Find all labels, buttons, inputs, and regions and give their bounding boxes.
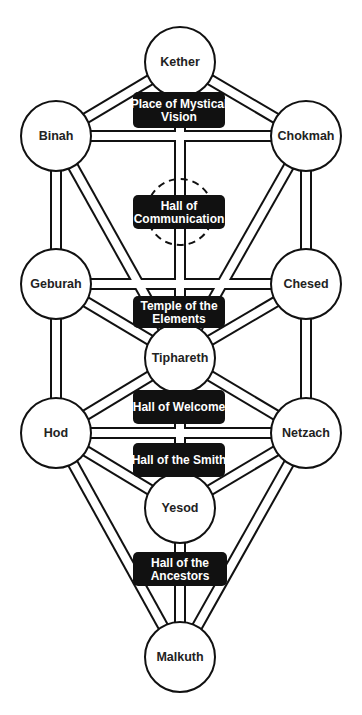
hall-label-text: Hall of the Smith [132,453,227,467]
hall-label-text: Vision [161,110,197,124]
sephirah-tiphareth: Tiphareth [145,323,215,393]
sephirah-label: Hod [44,426,68,440]
sephirah-binah: Binah [21,101,91,171]
sephirah-hod: Hod [21,398,91,468]
sephirah-label: Malkuth [156,650,203,664]
hall-label-place-of-mystical-vision: Place of MysticalVision [131,92,228,128]
sephirah-label: Geburah [30,277,81,291]
sephirah-label: Tiphareth [152,351,209,365]
hall-label-text: Hall of the [151,556,209,570]
hall-label-text: Elements [152,312,206,326]
hall-label-text: Temple of the [140,299,217,313]
hall-label-text: Hall of [161,199,199,213]
tree-of-life-diagram: KetherBinahChokmahGeburahChesedTiphareth… [0,0,362,715]
hall-label-hall-of-the-smith: Hall of the Smith [132,443,227,477]
sephirah-chokmah: Chokmah [271,101,341,171]
hall-label-hall-of-welcome: Hall of Welcome [133,390,226,424]
hall-label-hall-of-communication: Hall ofCommunication [133,195,225,229]
sephirah-label: Netzach [282,426,330,440]
sephirah-label: Chokmah [278,129,335,143]
hall-label-temple-of-the-elements: Temple of theElements [133,296,225,328]
sephirah-label: Binah [39,129,74,143]
sephirah-netzach: Netzach [271,398,341,468]
hall-label-text: Ancestors [151,569,210,583]
hall-label-text: Place of Mystical [131,97,228,111]
sephirah-malkuth: Malkuth [145,622,215,692]
sephirah-geburah: Geburah [21,249,91,319]
sephirah-label: Chesed [283,277,328,291]
hall-label-text: Hall of Welcome [133,400,226,414]
sephirah-chesed: Chesed [271,249,341,319]
sephirah-kether: Kether [145,27,215,97]
sephirah-yesod: Yesod [145,473,215,543]
sephirah-label: Kether [160,55,200,69]
hall-label-text: Communication [134,212,225,226]
hall-label-hall-of-the-ancestors: Hall of theAncestors [133,552,227,586]
sephirah-label: Yesod [162,501,199,515]
